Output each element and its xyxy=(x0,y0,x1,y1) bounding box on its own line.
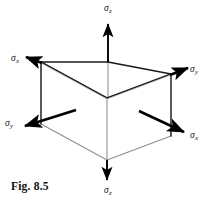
sigma-glyph: σ xyxy=(11,53,16,63)
arrow-sigma-x-upper-left xyxy=(26,57,42,63)
sigma-x-lower-right-label: σx xyxy=(190,131,198,142)
sigma-subscript: x xyxy=(16,57,19,65)
arrow-sigma-y-upper-right xyxy=(170,68,188,75)
sigma-subscript: x xyxy=(195,134,198,142)
sigma-subscript: z xyxy=(109,189,112,197)
sigma-glyph: σ xyxy=(5,118,10,128)
sigma-glyph: σ xyxy=(190,130,195,140)
sigma-glyph: σ xyxy=(190,64,195,74)
sigma-subscript: y xyxy=(195,68,198,76)
sigma-glyph: σ xyxy=(104,185,109,195)
sigma-subscript: y xyxy=(10,122,13,130)
sigma-z-top-label: σz xyxy=(104,4,112,15)
figure-container: σz σx σy σy σx σz Fig. 8.5 xyxy=(0,0,214,208)
arrow-sigma-y-lower-left xyxy=(25,110,76,126)
cube-visible-edges xyxy=(41,62,171,136)
cube-hidden-edges xyxy=(41,62,171,160)
stress-cube-diagram xyxy=(0,0,214,208)
sigma-subscript: z xyxy=(109,7,112,15)
arrow-sigma-x-lower-right xyxy=(139,111,184,132)
sigma-glyph: σ xyxy=(104,3,109,13)
sigma-z-bottom-label: σz xyxy=(104,186,112,197)
sigma-x-upper-left-label: σx xyxy=(11,54,19,65)
sigma-y-upper-right-label: σy xyxy=(190,65,198,76)
figure-caption: Fig. 8.5 xyxy=(11,180,49,192)
sigma-y-lower-left-label: σy xyxy=(5,119,13,130)
